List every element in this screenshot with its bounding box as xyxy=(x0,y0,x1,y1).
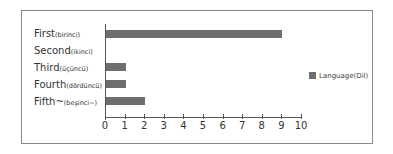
category-main: Fourth xyxy=(34,79,66,90)
category-sub: (dördüncü) xyxy=(66,82,102,90)
x-tick-label: 9 xyxy=(271,120,291,131)
x-tick-label: 1 xyxy=(115,120,135,131)
category-main: Second xyxy=(34,45,71,56)
x-tick-label: 10 xyxy=(291,120,311,131)
category-label-third: Third(üçüncü) xyxy=(34,62,88,75)
category-sub: (ikinci) xyxy=(71,48,93,56)
category-main: Third xyxy=(34,62,60,73)
category-sub: (birinci) xyxy=(55,31,80,39)
category-main: First xyxy=(34,28,55,39)
x-tick xyxy=(301,114,302,119)
x-tick-label: 4 xyxy=(173,120,193,131)
bar xyxy=(106,80,126,88)
legend: Language(Dil) xyxy=(309,72,368,80)
x-tick xyxy=(262,114,263,119)
x-tick-label: 7 xyxy=(232,120,252,131)
x-tick xyxy=(242,114,243,119)
x-tick-label: 5 xyxy=(193,120,213,131)
category-label-fourth: Fourth(dördüncü) xyxy=(34,79,102,92)
x-tick xyxy=(183,114,184,119)
x-tick-label: 6 xyxy=(213,120,233,131)
x-tick xyxy=(144,114,145,119)
x-tick xyxy=(164,114,165,119)
x-tick-label: 3 xyxy=(154,120,174,131)
x-tick-label: 0 xyxy=(95,120,115,131)
x-tick xyxy=(105,114,106,119)
x-tick xyxy=(125,114,126,119)
bar xyxy=(106,97,145,105)
bar xyxy=(106,30,282,38)
x-tick xyxy=(281,114,282,119)
y-axis-line xyxy=(105,24,106,120)
category-label-second: Second(ikinci) xyxy=(34,45,93,58)
legend-swatch xyxy=(309,72,316,79)
category-main: Fifth~ xyxy=(34,96,64,107)
category-label-first: First(birinci) xyxy=(34,28,80,41)
x-tick xyxy=(203,114,204,119)
category-sub: (üçüncü) xyxy=(60,65,89,73)
x-tick xyxy=(223,114,224,119)
category-label-fifth: Fifth~(beşinci~) xyxy=(34,96,97,109)
x-tick-label: 2 xyxy=(134,120,154,131)
legend-label: Language(Dil) xyxy=(319,72,368,80)
x-tick-label: 8 xyxy=(252,120,272,131)
category-sub: (beşinci~) xyxy=(64,99,97,107)
bar xyxy=(106,63,126,71)
